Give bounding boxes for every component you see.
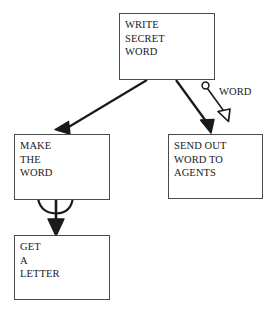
edge-make-to-get bbox=[48, 200, 64, 236]
diagram-canvas: WRITE SECRET WORD MAKE THE WORD SEND OUT… bbox=[0, 0, 278, 315]
node-get-a-letter[interactable]: GET A LETTER bbox=[14, 235, 110, 300]
node-line: GET bbox=[20, 240, 109, 254]
edge-label-word: WORD bbox=[219, 86, 251, 98]
node-line: WRITE bbox=[125, 18, 214, 32]
node-line: MAKE bbox=[20, 139, 109, 153]
node-line: LETTER bbox=[20, 267, 109, 281]
node-send-out-word-to-agents[interactable]: SEND OUT WORD TO AGENTS bbox=[168, 134, 263, 199]
node-line: A bbox=[20, 254, 109, 268]
node-write-secret-word[interactable]: WRITE SECRET WORD bbox=[119, 13, 215, 80]
node-line: AGENTS bbox=[174, 166, 262, 180]
node-line: WORD bbox=[125, 45, 214, 59]
node-make-the-word[interactable]: MAKE THE WORD bbox=[14, 134, 110, 200]
node-line: WORD bbox=[20, 166, 109, 180]
node-line: WORD TO bbox=[174, 153, 262, 167]
edge-write-to-make bbox=[55, 80, 147, 134]
node-line: SEND OUT bbox=[174, 139, 262, 153]
node-line: SECRET bbox=[125, 32, 214, 46]
node-line: THE bbox=[20, 153, 109, 167]
